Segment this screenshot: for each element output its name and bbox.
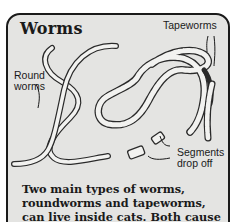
- caption-line: roundworms and tapeworms,: [22, 196, 232, 210]
- tapeworm-illustration: [98, 50, 212, 138]
- caption-text: Two main types of worms, roundworms and …: [22, 182, 232, 222]
- roundworms-label-line2: worms: [14, 81, 45, 92]
- segments-label-line2: drop off: [177, 158, 224, 169]
- caption-line: can live inside cats. Both cause: [22, 210, 232, 222]
- segments-label: Segments drop off: [177, 147, 224, 169]
- caption-line: Two main types of worms,: [22, 182, 232, 196]
- roundworms-label: Round worms: [14, 70, 45, 92]
- tapeworms-label: Tapeworms: [163, 20, 217, 31]
- detached-segments: [127, 131, 165, 159]
